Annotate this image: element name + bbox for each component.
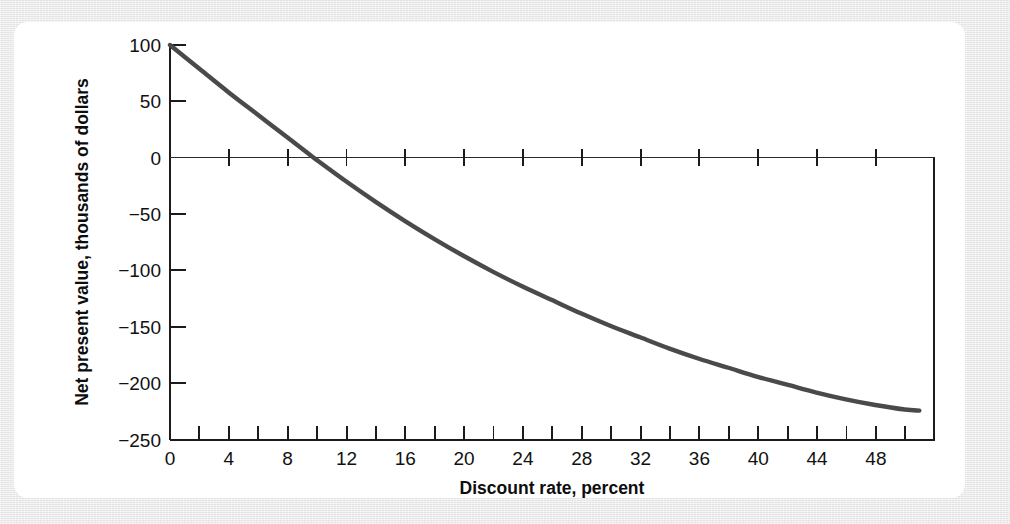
- y-tick-label: 0: [150, 148, 161, 169]
- y-tick-label: −50: [129, 204, 161, 225]
- y-tick-label: −100: [118, 260, 161, 281]
- npv-curve: [170, 45, 919, 411]
- y-tick-labels: 100 50 0 −50 −100 −150 −200 −250: [118, 35, 161, 451]
- x-tick-label: 8: [282, 448, 293, 469]
- x-tick-label: 28: [571, 448, 592, 469]
- y-tick-label: 100: [129, 35, 161, 56]
- x-tick-labels: 0 4 8 12 16 20 24 28 32 36 40 44 48: [165, 448, 887, 469]
- x-tick-label: 16: [395, 448, 416, 469]
- x-tick-label: 4: [224, 448, 235, 469]
- y-tick-label: 50: [140, 91, 161, 112]
- axes-group: [170, 45, 935, 440]
- y-tick-marks: [170, 45, 186, 383]
- x-tick-label: 12: [336, 448, 357, 469]
- x-tick-label: 24: [512, 448, 534, 469]
- x-tick-label: 36: [689, 448, 710, 469]
- y-axis-title: Net present value, thousands of dollars: [72, 78, 92, 406]
- x-tick-label: 0: [165, 448, 176, 469]
- x-axis-title: Discount rate, percent: [460, 478, 645, 498]
- x-tick-marks: [199, 426, 905, 440]
- npv-chart: 100 50 0 −50 −100 −150 −200 −250: [14, 22, 965, 498]
- x-tick-label: 44: [807, 448, 829, 469]
- x-tick-label: 48: [865, 448, 886, 469]
- x-tick-label: 32: [630, 448, 651, 469]
- figure-card: 100 50 0 −50 −100 −150 −200 −250: [14, 22, 965, 498]
- y-tick-label: −200: [118, 373, 161, 394]
- y-tick-label: −250: [118, 430, 161, 451]
- y-tick-label: −150: [118, 317, 161, 338]
- x-tick-label: 20: [454, 448, 475, 469]
- x-tick-label: 40: [748, 448, 769, 469]
